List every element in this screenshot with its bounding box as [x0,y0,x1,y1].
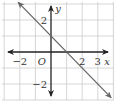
y-tick-label: −2 [32,79,47,90]
coordinate-plane: −2232−2Oxy [0,0,115,101]
y-axis-label: y [54,3,61,14]
x-tick-label: 3 [95,56,101,67]
grid-lines [2,2,114,100]
x-tick-label: −2 [12,56,27,67]
origin-label: O [38,56,46,67]
x-tick-label: 2 [79,56,85,67]
axes [8,6,108,96]
y-tick-label: 2 [41,15,47,26]
x-axis-label: x [104,56,110,67]
graph-svg: −2232−2Oxy [0,0,115,101]
